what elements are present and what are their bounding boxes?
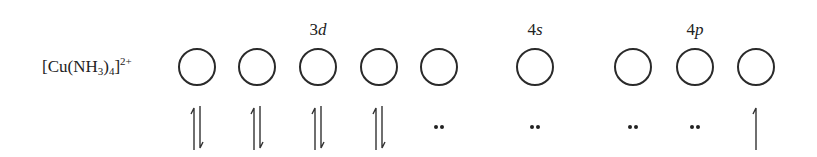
subshell-number: 3 — [310, 20, 319, 39]
orbital-circle-3d-4 — [420, 48, 458, 86]
subshell-label-3d: 3d — [310, 20, 327, 40]
subshell-label-4s: 4s — [527, 20, 542, 40]
orbital-circle-3d-2 — [299, 48, 337, 86]
charge-superscript: 2+ — [120, 55, 132, 67]
paired-electron-arrows-icon — [308, 104, 328, 152]
subshell-letter: s — [536, 20, 543, 39]
complex-label: [Cu(NH3)4]2+ — [42, 55, 132, 77]
ligand-electron-pair-dots-icon — [623, 104, 643, 152]
subshell-number: 4 — [687, 20, 696, 39]
subshell-number: 4 — [527, 20, 536, 39]
orbital-circle-4s-5 — [516, 48, 554, 86]
ligand-electron-pair-dots-icon — [685, 104, 705, 152]
subshell-letter: d — [318, 20, 327, 39]
complex-formula-part: [Cu(NH — [42, 57, 98, 76]
orbital-circle-4p-6 — [614, 48, 652, 86]
subshell-label-4p: 4p — [687, 20, 704, 40]
paired-electron-arrows-icon — [369, 104, 389, 152]
ligand-electron-pair-dots-icon — [525, 104, 545, 152]
paired-electron-arrows-icon — [247, 104, 267, 152]
orbital-circle-4p-7 — [676, 48, 714, 86]
orbital-circle-4p-8 — [737, 48, 775, 86]
orbital-circle-3d-0 — [178, 48, 216, 86]
paired-electron-arrows-icon — [187, 104, 207, 152]
subshell-letter: p — [695, 20, 704, 39]
unpaired-electron-arrow-icon — [746, 104, 766, 152]
orbital-circle-3d-1 — [238, 48, 276, 86]
ligand-electron-pair-dots-icon — [429, 104, 449, 152]
orbital-circle-3d-3 — [360, 48, 398, 86]
